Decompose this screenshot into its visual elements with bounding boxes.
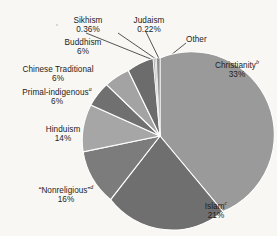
label-christianity-footnote: b bbox=[256, 59, 259, 65]
label-christianity-name: Christianity bbox=[215, 61, 256, 70]
label-primal-indigenous-footnote: a bbox=[89, 86, 92, 92]
label-hinduism-pct: 14% bbox=[28, 134, 98, 143]
leader-line-judaism bbox=[146, 32, 159, 59]
leader-line-sikhism bbox=[118, 33, 157, 60]
label-nonreligious-name: “Nonreligious” bbox=[39, 186, 91, 195]
label-chinese-traditional-pct: 6% bbox=[10, 74, 106, 83]
label-hinduism-name: Hinduism bbox=[46, 125, 81, 134]
label-sikhism-name: Sikhism bbox=[73, 16, 102, 25]
label-islam-footnote: c bbox=[225, 200, 228, 206]
label-hinduism: Hinduism 14% bbox=[28, 125, 98, 144]
label-other: Other bbox=[186, 35, 207, 44]
label-buddhism: Buddhism 6% bbox=[52, 38, 114, 57]
label-chinese-traditional-name: Chinese Traditional bbox=[22, 65, 93, 74]
label-christianity-pct: 33% bbox=[200, 70, 274, 79]
label-judaism-name: Judaism bbox=[134, 16, 165, 25]
label-chinese-traditional: Chinese Traditional 6% bbox=[10, 65, 106, 84]
label-primal-indigenous-name: Primal-indigenous bbox=[22, 88, 88, 97]
label-islam-pct: 21% bbox=[186, 211, 246, 220]
label-islam-name: Islam bbox=[205, 202, 225, 211]
pie-chart-figure: RELIGIONS WORLDWIDE Sikhism 0.36% bbox=[0, 0, 277, 236]
label-islam: Islamc 21% bbox=[186, 202, 246, 221]
label-sikhism: Sikhism 0.36% bbox=[58, 16, 118, 35]
label-primal-indigenous-pct: 6% bbox=[8, 97, 106, 106]
label-judaism-pct: 0.22% bbox=[120, 25, 178, 34]
label-judaism: Judaism 0.22% bbox=[120, 16, 178, 35]
label-nonreligious-pct: 16% bbox=[20, 195, 112, 204]
label-other-name: Other bbox=[186, 35, 207, 44]
label-christianity: Christianityb 33% bbox=[200, 61, 274, 80]
label-nonreligious: “Nonreligious”d 16% bbox=[20, 186, 112, 205]
label-nonreligious-footnote: d bbox=[90, 184, 93, 190]
label-primal-indigenous: Primal-indigenousa 6% bbox=[8, 88, 106, 107]
label-buddhism-pct: 6% bbox=[52, 47, 114, 56]
label-buddhism-name: Buddhism bbox=[65, 38, 102, 47]
label-sikhism-pct: 0.36% bbox=[58, 25, 118, 34]
